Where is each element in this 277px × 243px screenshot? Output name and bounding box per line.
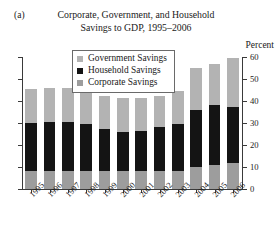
bar-1995 <box>25 89 37 189</box>
y-tick-mark-30 <box>18 123 22 124</box>
panel-label: (a) <box>14 10 25 20</box>
y-tick-label-10: 10 <box>250 163 259 172</box>
bar-segment-government-2002 <box>154 96 166 128</box>
bar-segment-government-2005 <box>209 64 221 106</box>
bar-segment-household-1995 <box>25 123 37 171</box>
y-tick-mark-50 <box>18 79 22 80</box>
bar-1998 <box>80 92 92 189</box>
y-tick-label-40: 40 <box>250 97 259 106</box>
y-tick-mark-10 <box>243 167 247 168</box>
bar-segment-government-2001 <box>135 98 147 131</box>
chart-title-line-1: Corporate, Government, and Household <box>38 9 234 22</box>
legend-swatch-icon <box>77 56 83 62</box>
bar-segment-household-1998 <box>80 124 92 171</box>
y-tick-mark-40 <box>243 101 247 102</box>
bar-1996 <box>44 88 56 189</box>
bar-2003 <box>172 91 184 189</box>
bar-segment-household-2004 <box>190 110 202 167</box>
legend-label: Household Savings <box>88 66 161 75</box>
bar-1997 <box>62 88 74 189</box>
bar-2006 <box>227 58 239 189</box>
bar-2004 <box>190 68 202 189</box>
y-tick-label-50: 50 <box>250 75 259 84</box>
bar-2001 <box>135 98 147 189</box>
bar-2005 <box>209 64 221 189</box>
y-tick-mark-20 <box>18 145 22 146</box>
bar-segment-household-1999 <box>99 129 111 172</box>
chart-legend: Government SavingsHousehold SavingsCorpo… <box>72 50 175 93</box>
y-tick-mark-20 <box>243 145 247 146</box>
y-axis-left-line <box>22 57 23 190</box>
y-tick-mark-30 <box>243 123 247 124</box>
bar-segment-household-2006 <box>227 107 239 163</box>
bar-segment-government-2006 <box>227 58 239 106</box>
bar-segment-household-2003 <box>172 124 184 171</box>
legend-label: Corporate Savings <box>88 78 158 87</box>
legend-item: Government Savings <box>77 53 167 65</box>
y-tick-mark-60 <box>18 57 22 58</box>
bar-segment-government-2003 <box>172 91 184 124</box>
y-tick-label-30: 30 <box>250 119 259 128</box>
bar-segment-government-2000 <box>117 98 129 132</box>
bar-segment-government-2004 <box>190 68 202 110</box>
y-tick-label-20: 20 <box>250 141 259 150</box>
bar-2002 <box>154 96 166 190</box>
bar-segment-household-2001 <box>135 131 147 172</box>
bar-segment-household-1996 <box>44 122 56 172</box>
bar-segment-household-2002 <box>154 127 166 171</box>
y-tick-mark-10 <box>18 167 22 168</box>
y-tick-mark-40 <box>18 101 22 102</box>
y-tick-mark-50 <box>243 79 247 80</box>
chart-title-line-2: Savings to GDP, 1995–2006 <box>38 22 234 35</box>
bar-segment-government-1998 <box>80 92 92 124</box>
legend-item: Corporate Savings <box>77 77 167 89</box>
y-tick-label-0: 0 <box>250 185 254 194</box>
bar-segment-government-1996 <box>44 88 56 122</box>
bar-1999 <box>99 96 111 190</box>
legend-label: Government Savings <box>88 54 167 63</box>
chart-title: Corporate, Government, and Household Sav… <box>38 9 234 34</box>
figure-panel-a: (a) Corporate, Government, and Household… <box>0 0 277 243</box>
legend-swatch-icon <box>77 80 83 86</box>
bar-segment-government-1999 <box>99 96 111 129</box>
bar-segment-household-1997 <box>62 122 74 172</box>
bar-segment-government-1995 <box>25 89 37 123</box>
y-axis-unit-label: Percent <box>246 40 275 50</box>
bar-segment-household-2005 <box>209 105 221 164</box>
legend-item: Household Savings <box>77 65 167 77</box>
y-tick-mark-60 <box>243 57 247 58</box>
bar-segment-household-2000 <box>117 132 129 172</box>
bar-2000 <box>117 98 129 189</box>
legend-swatch-icon <box>77 68 83 74</box>
y-tick-mark-0 <box>18 189 22 190</box>
y-tick-label-60: 60 <box>250 53 259 62</box>
